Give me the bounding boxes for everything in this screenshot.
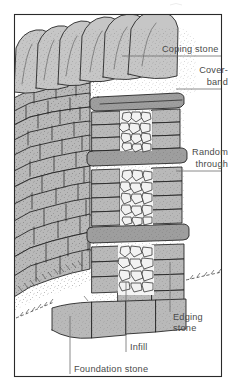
label-edging-stone-line2: stone (173, 323, 196, 333)
label-cover-band-line2: band (207, 77, 228, 87)
label-random-through-line2: through (195, 159, 228, 169)
foundation-stones (52, 299, 186, 338)
wall-illustration: Coping stone Cover- band Random through … (0, 0, 237, 392)
label-cover-band-line1: Cover- (199, 65, 228, 75)
label-infill: Infill (130, 342, 148, 352)
wall-left-face (14, 78, 100, 311)
label-foundation-stone: Foundation stone (74, 364, 148, 374)
label-random-through-line1: Random (192, 147, 228, 157)
label-edging-stone-line1: Edging (173, 312, 203, 322)
top-margin-mark (170, 4, 182, 6)
infill-rubble (118, 111, 154, 295)
dry-stone-wall-figure: Coping stone Cover- band Random through … (0, 0, 237, 392)
label-coping-stone: Coping stone (162, 44, 219, 54)
